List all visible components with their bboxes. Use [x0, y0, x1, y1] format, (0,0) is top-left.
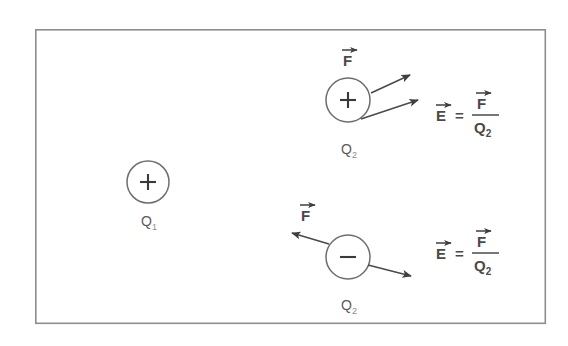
- electric-field-diagram: Q1 Q2 F Q2: [0, 0, 568, 346]
- positive-test-charge-label: Q2: [341, 141, 357, 160]
- positive-test-charge-group: Q2 F: [326, 50, 418, 160]
- equation-lower-lhs: E: [436, 245, 446, 262]
- equation-lower-denominator: Q2: [474, 257, 492, 277]
- source-charge-label: Q1: [141, 213, 157, 232]
- force-label-upper: F: [342, 50, 357, 69]
- negative-test-charge-label: Q2: [341, 297, 357, 316]
- field-vector-lower-arrow: [368, 265, 411, 276]
- force-label-lower-text: F: [301, 207, 310, 224]
- diagram-frame: [36, 30, 546, 324]
- equation-upper-lhs: E: [436, 107, 446, 124]
- force-label-upper-text: F: [343, 52, 352, 69]
- diagram-page: Q1 Q2 F Q2: [0, 0, 568, 346]
- equation-upper-numerator: F: [477, 95, 486, 112]
- equation-upper-denominator: Q2: [474, 119, 492, 139]
- force-vector-lower-arrow: [292, 233, 329, 244]
- equation-lower-numerator: F: [477, 233, 486, 250]
- equation-lower-operator: =: [455, 245, 464, 262]
- field-equation-lower: E = F Q2: [436, 231, 499, 277]
- field-equation-upper: E = F Q2: [436, 93, 499, 139]
- force-label-lower: F: [300, 205, 315, 224]
- source-charge-group: Q1: [127, 161, 169, 232]
- force-vector-upper-arrow: [371, 75, 410, 93]
- negative-test-charge-group: Q2 F: [292, 205, 411, 316]
- equation-upper-operator: =: [455, 107, 464, 124]
